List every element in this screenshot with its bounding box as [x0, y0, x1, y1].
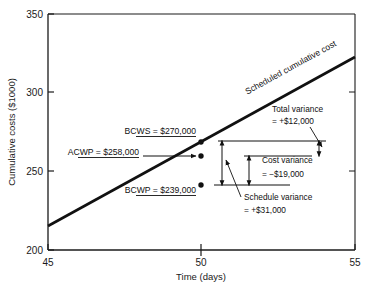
data-point-acwp [198, 153, 203, 158]
acwp-label: ACWP = $258,000 [68, 147, 139, 157]
total-variance-leader [310, 127, 322, 147]
y-tick-label-300: 300 [26, 87, 43, 98]
schedule-variance-label-line1: Schedule variance [244, 192, 313, 202]
x-axis-title: Time (days) [176, 271, 226, 282]
data-point-bcws [198, 139, 203, 144]
schedule-variance-label-line2: = +$31,000 [244, 205, 286, 215]
y-axis-ticks-right [349, 92, 355, 171]
schedule-variance-leader [226, 160, 241, 197]
plot-frame [48, 14, 355, 250]
y-axis-title: Cumulative costs ($1000) [6, 78, 17, 186]
bcws-label: BCWS = $270,000 [125, 126, 197, 136]
x-tick-label-50: 50 [195, 257, 207, 268]
x-tick-label-45: 45 [42, 257, 54, 268]
bcwp-label: BCWP = $239,000 [125, 185, 196, 195]
earned-value-chart: 350 300 250 200 45 50 55 Time (days) Cum… [0, 0, 366, 287]
y-tick-label-200: 200 [26, 245, 43, 256]
y-axis-ticks [48, 14, 54, 250]
x-tick-label-55: 55 [349, 257, 361, 268]
scheduled-cumulative-cost-label: Scheduled cumulative cost [243, 38, 338, 96]
y-tick-label-250: 250 [26, 166, 43, 177]
cost-variance-label-line2: = −$19,000 [262, 169, 304, 179]
total-variance-label-line2: = +$12,000 [272, 116, 314, 126]
y-tick-label-350: 350 [26, 9, 43, 20]
data-point-bcwp [198, 182, 203, 187]
cost-variance-label-line1: Cost variance [262, 155, 313, 165]
chart-container: 350 300 250 200 45 50 55 Time (days) Cum… [0, 0, 366, 287]
total-variance-label-line1: Total variance [272, 104, 324, 114]
